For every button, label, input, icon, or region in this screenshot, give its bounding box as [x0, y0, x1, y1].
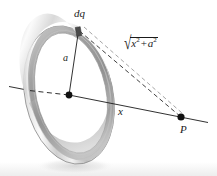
figure-canvas: [0, 0, 217, 176]
ring-center-dot: [66, 92, 73, 99]
radical-group: √x2+a2: [124, 38, 158, 53]
label-distance-expression: √x2+a2: [124, 38, 158, 53]
label-point-p: P: [180, 124, 187, 135]
label-radius-a: a: [63, 53, 68, 63]
label-distance-x: x: [118, 106, 123, 117]
label-dq: dq: [74, 8, 85, 19]
charged-ring-figure: dq a x P √x2+a2: [0, 0, 217, 176]
point-p-dot: [177, 113, 184, 120]
radicand: x2+a2: [130, 37, 158, 49]
plus-operator: +: [140, 37, 148, 49]
term-a-exponent: 2: [153, 36, 157, 44]
